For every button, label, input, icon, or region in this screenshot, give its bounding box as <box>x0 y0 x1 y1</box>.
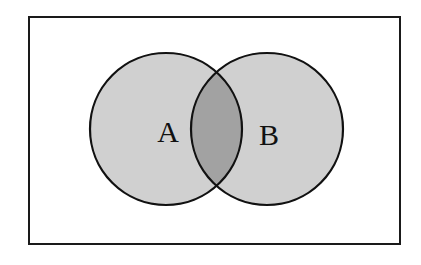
venn-diagram: A B <box>0 0 421 265</box>
set-b-label: B <box>259 118 279 151</box>
set-a-label: A <box>157 115 179 148</box>
